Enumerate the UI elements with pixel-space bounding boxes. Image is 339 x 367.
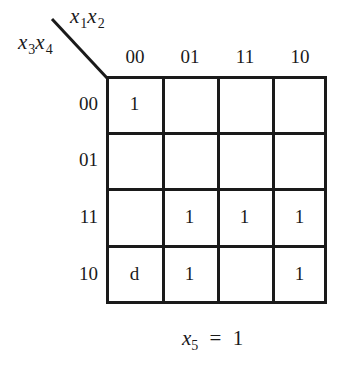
kmap-cell: 1 bbox=[272, 263, 327, 285]
row-header-00: 00 bbox=[58, 93, 98, 115]
row-var-2-sub: 4 bbox=[46, 42, 53, 57]
row-var-1: x bbox=[18, 30, 27, 54]
row-header-11: 11 bbox=[58, 206, 98, 228]
kmap-cell: d bbox=[107, 263, 162, 285]
map-condition-label: x5 = 1 bbox=[182, 326, 243, 354]
row-header-10: 10 bbox=[58, 263, 98, 285]
row-var-2: x bbox=[35, 30, 44, 54]
col-header-11: 11 bbox=[217, 46, 273, 68]
footer-equals: = bbox=[210, 326, 222, 350]
kmap-cell: 1 bbox=[107, 93, 162, 115]
grid-divider bbox=[106, 245, 327, 248]
col-var-1: x bbox=[70, 4, 79, 28]
footer-var: x bbox=[182, 326, 191, 350]
kmap-cell: 1 bbox=[272, 206, 327, 228]
column-variables-label: x1x2 bbox=[70, 4, 105, 32]
col-var-2-sub: 2 bbox=[98, 16, 105, 31]
grid-divider bbox=[106, 132, 327, 135]
kmap-cell: 1 bbox=[162, 263, 217, 285]
col-var-2: x bbox=[87, 4, 96, 28]
row-header-01: 01 bbox=[58, 149, 98, 171]
col-header-01: 01 bbox=[162, 46, 218, 68]
col-header-10: 10 bbox=[272, 46, 328, 68]
grid-divider bbox=[106, 188, 327, 191]
footer-value: 1 bbox=[233, 326, 244, 350]
footer-var-sub: 5 bbox=[191, 338, 198, 353]
kmap-cell: 1 bbox=[217, 206, 272, 228]
row-variables-label: x3x4 bbox=[18, 30, 53, 58]
kmap-cell: 1 bbox=[162, 206, 217, 228]
col-header-00: 00 bbox=[107, 46, 163, 68]
